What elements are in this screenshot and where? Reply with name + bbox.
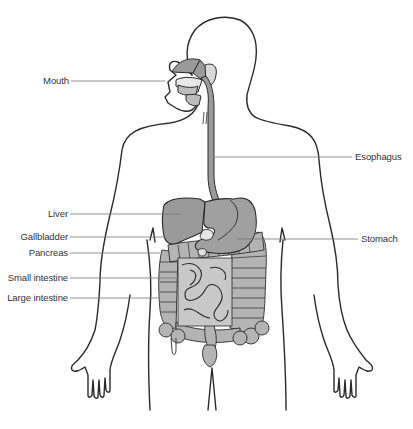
label-small-intestine: Small intestine bbox=[0, 272, 68, 283]
pancreas bbox=[198, 249, 207, 256]
trachea bbox=[203, 112, 207, 124]
label-mouth: Mouth bbox=[22, 75, 69, 86]
label-gallbladder: Gallbladder bbox=[5, 231, 68, 242]
liver bbox=[163, 198, 206, 244]
stomach bbox=[195, 198, 256, 253]
esophagus bbox=[201, 76, 224, 212]
label-esophagus: Esophagus bbox=[355, 151, 402, 162]
gallbladder bbox=[200, 229, 213, 240]
label-pancreas: Pancreas bbox=[5, 247, 68, 258]
label-liver: Liver bbox=[10, 208, 68, 219]
label-stomach: Stomach bbox=[361, 233, 398, 244]
small-intestine bbox=[178, 258, 232, 326]
label-large-intestine: Large intestine bbox=[0, 292, 68, 303]
